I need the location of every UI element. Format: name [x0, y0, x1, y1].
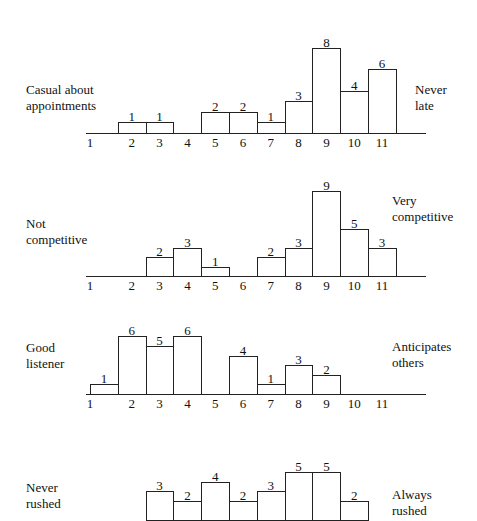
bar [257, 491, 286, 521]
bar-value-label: 2 [229, 489, 257, 502]
bar [229, 501, 258, 521]
bar-value-label: 3 [146, 479, 174, 492]
bar [146, 491, 175, 521]
bar [340, 501, 369, 521]
left-label: Never rushed [26, 480, 61, 512]
bar-value-label: 2 [173, 489, 201, 502]
bar-value-label: 4 [201, 470, 229, 483]
right-label: Always rushed [392, 487, 432, 519]
bar [312, 472, 341, 521]
bar [201, 482, 230, 521]
bar-value-label: 5 [312, 460, 340, 473]
left-label-line: Never [26, 480, 61, 496]
bar-value-label: 3 [257, 479, 285, 492]
bar-value-label: 2 [340, 489, 368, 502]
left-label-line: rushed [26, 496, 61, 512]
right-label-line: Always [392, 487, 432, 503]
bar-value-label: 5 [285, 460, 313, 473]
right-label-line: rushed [392, 503, 432, 519]
bar [173, 501, 202, 521]
bar [285, 472, 314, 521]
